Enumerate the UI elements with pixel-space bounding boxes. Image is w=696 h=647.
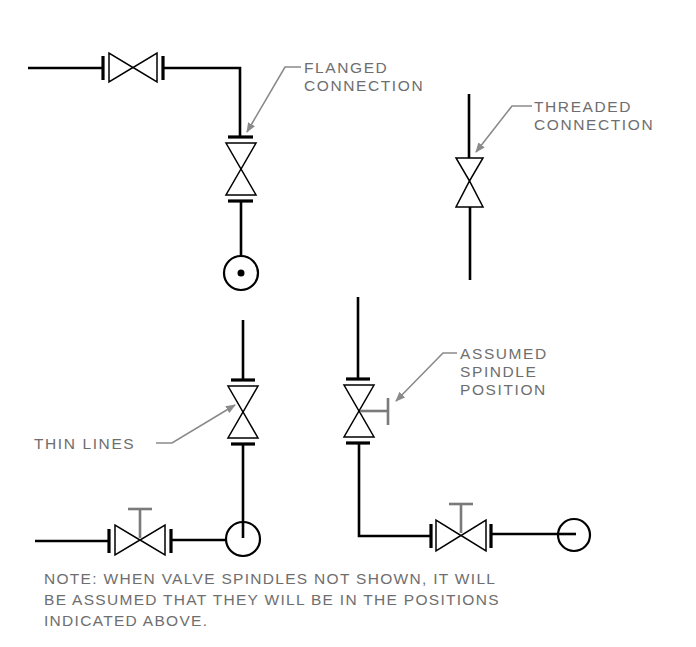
pipe-elbow [164, 68, 240, 136]
note-line2: BE ASSUMED THAT THEY WILL BE IN THE POSI… [44, 591, 500, 608]
threaded-valve-assembly [456, 94, 483, 280]
gate-valve-vertical-icon [228, 386, 258, 438]
spindle-label-line1: ASSUMED [460, 345, 548, 362]
gate-valve-vertical-icon [226, 143, 256, 195]
assumed-spindle-callout: ASSUMED SPINDLE POSITION [396, 345, 548, 401]
thin-lines-label: THIN LINES [34, 435, 135, 452]
pipe-elbow [359, 444, 430, 536]
gate-valve-vertical-icon [456, 158, 483, 207]
threaded-connection-callout: THREADED CONNECTION [476, 98, 654, 152]
threaded-label-line1: THREADED [534, 98, 632, 115]
spindle-label-line3: POSITION [460, 381, 547, 398]
spindle-label-line2: SPINDLE [460, 363, 538, 380]
flanged-label-line2: CONNECTION [304, 77, 424, 94]
note-line1: NOTE: WHEN VALVE SPINDLES NOT SHOWN, IT … [44, 570, 496, 587]
leader-line [247, 67, 301, 132]
gate-valve-icon [109, 53, 157, 82]
valve-symbol-diagram: FLANGED CONNECTION THREADED CONNECTION [0, 0, 696, 647]
threaded-label-line2: CONNECTION [534, 116, 654, 133]
pipe-toward-viewer-icon [224, 256, 258, 290]
bottom-right-assembly [344, 297, 590, 551]
leader-line [156, 405, 235, 443]
thin-lines-callout: THIN LINES [34, 405, 235, 452]
flanged-label-line1: FLANGED [304, 59, 388, 76]
note-block: NOTE: WHEN VALVE SPINDLES NOT SHOWN, IT … [44, 570, 500, 629]
note-line3: INDICATED ABOVE. [44, 612, 208, 629]
leader-line [476, 106, 532, 152]
spindle-icon [449, 504, 473, 533]
leader-line [396, 353, 457, 401]
top-flanged-assembly [28, 53, 258, 290]
flanged-connection-callout: FLANGED CONNECTION [247, 59, 424, 132]
spindle-icon [128, 509, 152, 538]
